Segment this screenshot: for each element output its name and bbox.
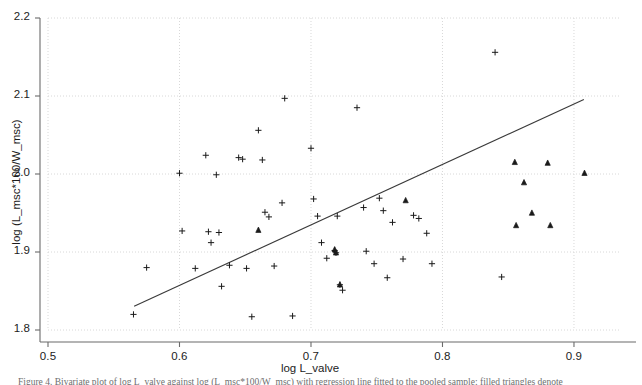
- data-point-plus: [144, 265, 150, 271]
- data-point-plus: [205, 229, 211, 235]
- data-point-triangle: [521, 179, 526, 184]
- data-point-plus: [176, 170, 182, 176]
- data-point-plus: [389, 219, 395, 225]
- x-axis-tick-label: 0.8: [420, 350, 464, 362]
- data-point-plus: [203, 152, 209, 158]
- regression-line: [134, 100, 584, 307]
- x-axis-tick-label: 0.7: [289, 350, 333, 362]
- data-point-plus: [249, 314, 255, 320]
- data-point-triangle: [403, 197, 408, 202]
- data-point-plus: [236, 155, 242, 161]
- data-point-plus: [262, 209, 268, 215]
- data-point-plus: [492, 49, 498, 55]
- data-point-plus: [376, 195, 382, 201]
- data-point-plus: [271, 263, 277, 269]
- data-point-plus: [410, 212, 416, 218]
- y-axis-title: log (L_msc*100/W_msc): [10, 92, 22, 272]
- data-point-plus: [213, 172, 219, 178]
- data-point-plus: [289, 313, 295, 319]
- data-point-plus: [371, 261, 377, 267]
- data-point-plus: [208, 240, 214, 246]
- data-point-triangle: [529, 210, 534, 215]
- data-point-plus: [416, 215, 422, 221]
- data-point-plus: [354, 105, 360, 111]
- data-point-plus: [130, 311, 136, 317]
- data-point-plus: [324, 255, 330, 261]
- data-markers: [130, 49, 587, 320]
- data-point-plus: [339, 287, 345, 293]
- data-point-plus: [308, 145, 314, 151]
- regression-line-path: [134, 100, 584, 307]
- y-axis-tick-label: 1.8: [0, 322, 30, 334]
- data-point-triangle: [582, 170, 587, 175]
- data-point-plus: [314, 213, 320, 219]
- data-point-triangle: [545, 160, 550, 165]
- plot-canvas: [0, 0, 642, 385]
- data-point-triangle: [548, 222, 553, 227]
- data-point-triangle: [256, 227, 261, 232]
- data-point-plus: [255, 127, 261, 133]
- data-point-triangle: [514, 222, 519, 227]
- data-point-plus: [429, 261, 435, 267]
- data-point-plus: [279, 200, 285, 206]
- data-point-plus: [363, 248, 369, 254]
- data-point-plus: [384, 275, 390, 281]
- x-axis-tick-label: 0.5: [26, 350, 70, 362]
- x-axis-title: log L_valve: [0, 362, 620, 374]
- data-point-plus: [318, 240, 324, 246]
- gridlines: [48, 18, 620, 330]
- scatter-plot-figure: 1.81.92.02.12.2 0.50.60.70.80.9 log (L_m…: [0, 0, 642, 385]
- data-point-triangle: [512, 159, 517, 164]
- data-point-plus: [243, 265, 249, 271]
- y-axis-tick-label: 2.2: [0, 10, 30, 22]
- data-point-plus: [240, 156, 246, 162]
- x-axis-tick-label: 0.9: [552, 350, 596, 362]
- data-point-plus: [380, 208, 386, 214]
- data-point-plus: [216, 229, 222, 235]
- figure-caption: Figure 4. Bivariate plot of log L_valve …: [18, 377, 630, 385]
- data-point-plus: [424, 230, 430, 236]
- x-axis-tick-label: 0.6: [157, 350, 201, 362]
- data-point-plus: [360, 204, 366, 210]
- data-point-plus: [218, 283, 224, 289]
- data-point-plus: [400, 256, 406, 262]
- data-point-plus: [192, 265, 198, 271]
- axis-spines: [35, 18, 636, 347]
- data-point-plus: [259, 157, 265, 163]
- data-point-plus: [499, 274, 505, 280]
- data-point-plus: [266, 214, 272, 220]
